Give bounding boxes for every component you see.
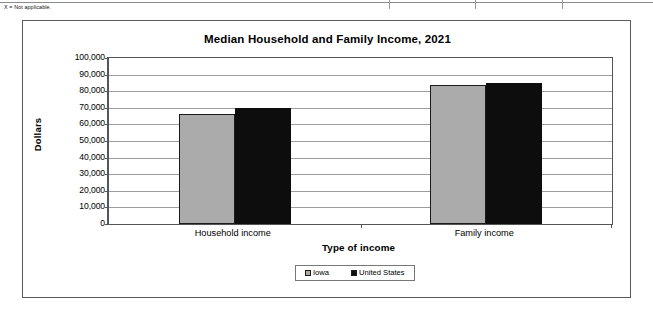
- y-axis-tick: [105, 58, 109, 59]
- y-axis-tick-label: 100,000: [47, 53, 105, 62]
- y-axis-tick: [105, 141, 109, 142]
- y-axis-tick-labels: 100,00090,00080,00070,00060,00050,00040,…: [47, 57, 105, 223]
- legend-swatch-icon: [351, 270, 357, 276]
- x-axis-category-label: Household income: [173, 228, 293, 238]
- y-axis-tick-label: 0: [47, 219, 105, 228]
- table-horizontal-rule: [0, 2, 653, 3]
- y-axis-tick: [105, 191, 109, 192]
- y-axis-tick: [105, 158, 109, 159]
- y-axis-tick-label: 30,000: [47, 169, 105, 178]
- y-axis-tick-label: 50,000: [47, 136, 105, 145]
- y-axis-tick: [105, 207, 109, 208]
- y-axis-tick-label: 10,000: [47, 202, 105, 211]
- table-column-tick: [389, 0, 390, 9]
- plot-area: [107, 57, 613, 225]
- table-column-tick: [475, 0, 476, 9]
- legend-label: United States: [359, 269, 405, 277]
- y-axis-tick-label: 90,000: [47, 69, 105, 78]
- y-axis-tick: [105, 75, 109, 76]
- bar-united-states-household-income: [235, 108, 291, 224]
- bar-iowa-family-income: [430, 85, 486, 224]
- y-axis-tick-label: 60,000: [47, 119, 105, 128]
- chart-title: Median Household and Family Income, 2021: [23, 33, 632, 45]
- footnote-text: X = Not applicable.: [4, 3, 51, 11]
- y-axis-tick-label: 40,000: [47, 152, 105, 161]
- x-axis-title: Type of income: [107, 242, 610, 253]
- y-axis-tick: [105, 124, 109, 125]
- legend-item-iowa: Iowa: [305, 269, 329, 277]
- x-axis-tick: [611, 224, 612, 228]
- chart-frame: Median Household and Family Income, 2021…: [22, 20, 631, 298]
- legend-item-united-states: United States: [351, 269, 405, 277]
- y-axis-tick-label: 80,000: [47, 86, 105, 95]
- table-column-tick: [562, 0, 563, 9]
- gridline: [109, 75, 612, 76]
- table-rule-remnant: [0, 0, 653, 10]
- chart-legend: IowaUnited States: [295, 265, 415, 281]
- y-axis-tick: [105, 224, 109, 225]
- x-axis-category-label: Family income: [424, 228, 544, 238]
- y-axis-tick: [105, 108, 109, 109]
- y-axis-tick: [105, 174, 109, 175]
- y-axis-tick-label: 20,000: [47, 186, 105, 195]
- y-axis-tick-label: 70,000: [47, 103, 105, 112]
- legend-swatch-icon: [305, 270, 311, 276]
- y-axis-title: Dollars: [32, 95, 43, 175]
- y-axis-tick: [105, 91, 109, 92]
- x-axis-tick: [361, 224, 362, 228]
- legend-label: Iowa: [313, 269, 329, 277]
- bar-united-states-family-income: [486, 83, 542, 224]
- bar-iowa-household-income: [179, 114, 235, 224]
